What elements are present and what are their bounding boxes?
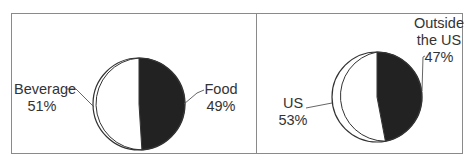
slice-food xyxy=(139,58,185,150)
slice-beverage xyxy=(96,58,142,150)
label-food-pct: 49% xyxy=(203,98,239,115)
label-us-pct: 53% xyxy=(278,112,308,129)
label-beverage-name: Beverage xyxy=(14,81,70,98)
leader-food xyxy=(184,90,204,104)
pie-sales-by-category xyxy=(67,58,204,150)
label-outside-us: Outside the US 47% xyxy=(412,15,466,66)
label-outside-line1: Outside xyxy=(412,15,466,32)
label-food: Food 49% xyxy=(203,81,239,115)
label-beverage-pct: 51% xyxy=(14,98,70,115)
label-beverage: Beverage 51% xyxy=(14,81,70,115)
label-outside-line2: the US xyxy=(412,32,466,49)
label-us: US 53% xyxy=(278,95,308,129)
leader-us xyxy=(306,103,332,108)
pie-sales-by-region xyxy=(306,52,425,142)
label-food-name: Food xyxy=(203,81,239,98)
label-outside-pct: 47% xyxy=(412,49,466,66)
label-us-name: US xyxy=(278,95,308,112)
